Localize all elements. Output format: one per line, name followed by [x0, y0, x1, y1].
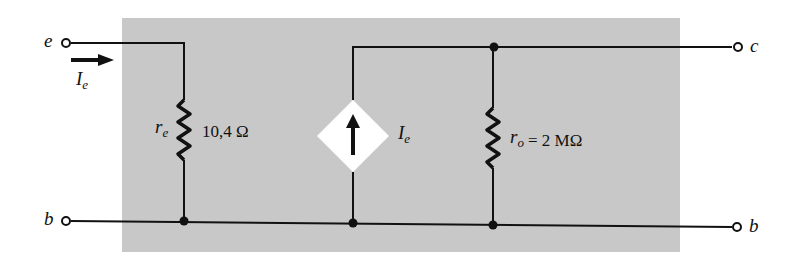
value-ro: = 2 MΩ: [528, 131, 582, 151]
terminal-b-left: [62, 217, 70, 225]
value-re: 10,4 Ω: [202, 122, 249, 142]
label-ro: ro: [510, 126, 524, 151]
label-b-left: b: [44, 208, 54, 230]
label-b-right: b: [749, 215, 759, 237]
terminal-e: [62, 39, 70, 47]
label-e: e: [44, 30, 52, 52]
terminal-c: [734, 43, 742, 51]
label-c: c: [750, 35, 758, 57]
arrow-right-icon: [98, 54, 114, 66]
label-source-current: Ie: [398, 122, 410, 147]
label-re: re: [155, 116, 168, 141]
terminal-b-right: [733, 223, 741, 231]
label-input-current: Ie: [76, 68, 88, 93]
